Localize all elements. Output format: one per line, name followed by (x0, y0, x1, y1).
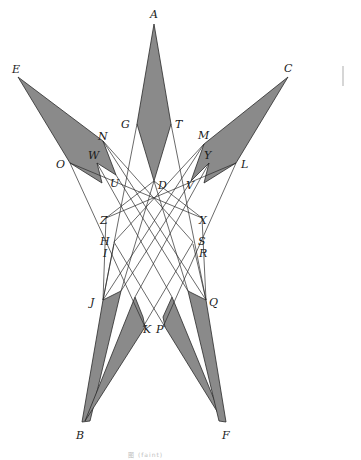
label-U: U (110, 177, 120, 190)
label-V: V (186, 179, 195, 192)
line-D-down-left (121, 181, 154, 291)
line-X-left (70, 163, 202, 218)
label-B: B (75, 429, 84, 442)
label-G: G (121, 118, 130, 131)
label-I: I (102, 247, 108, 260)
label-R: R (198, 247, 207, 260)
star-figure-diagram: A E C G T N M W Y O L U D V Z X H I S R … (0, 0, 361, 460)
label-L: L (240, 158, 248, 171)
line-Y-down (135, 163, 209, 297)
shade-top-kite (137, 24, 171, 181)
label-P: P (155, 323, 164, 336)
label-T: T (175, 118, 184, 131)
label-C: C (284, 62, 293, 75)
label-Q: Q (209, 296, 218, 309)
label-Z: Z (99, 214, 108, 227)
label-M: M (197, 129, 210, 142)
label-A: A (149, 8, 158, 21)
label-K: K (142, 323, 152, 336)
label-O: O (56, 158, 65, 171)
figure-caption: 图 (faint) (128, 451, 163, 459)
label-N: N (97, 130, 108, 143)
label-J: J (88, 296, 95, 309)
label-F: F (221, 429, 230, 442)
label-W: W (88, 149, 101, 162)
line-V-across (121, 181, 191, 291)
label-D: D (157, 179, 167, 192)
label-E: E (11, 63, 20, 76)
label-X: X (198, 214, 208, 227)
line-U-across (116, 175, 188, 291)
